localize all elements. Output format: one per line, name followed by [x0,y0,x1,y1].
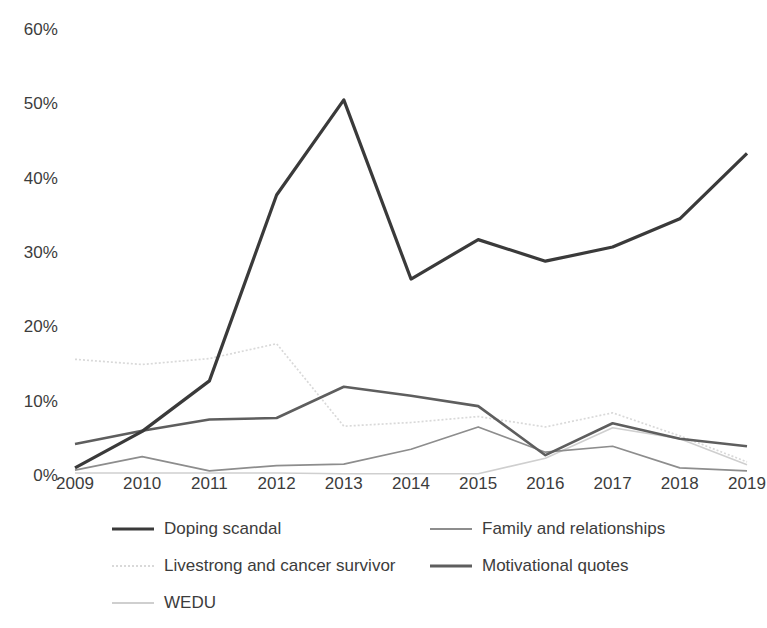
legend-label: Motivational quotes [482,555,628,577]
y-tick-label: 10% [24,392,58,412]
x-tick-label: 2014 [392,474,430,494]
legend-label: Doping scandal [164,518,281,540]
legend-item[interactable]: Family and relationships [430,518,665,540]
x-tick-label: 2013 [325,474,363,494]
legend-item[interactable]: Doping scandal [112,518,281,540]
y-tick-label: 40% [24,169,58,189]
legend-line-swatch-icon [112,560,154,572]
x-tick-label: 2015 [459,474,497,494]
x-tick-label: 2012 [257,474,295,494]
x-tick-label: 2017 [593,474,631,494]
y-tick-label: 60% [24,20,58,40]
legend-label: WEDU [164,592,216,614]
y-tick-label: 20% [24,317,58,337]
x-tick-label: 2018 [661,474,699,494]
series-line [75,344,747,462]
series-line [75,100,747,468]
x-tick-label: 2016 [526,474,564,494]
series-line [75,387,747,455]
series-line [75,428,747,474]
legend-item[interactable]: WEDU [112,592,216,614]
legend-item[interactable]: Motivational quotes [430,555,628,577]
plot-area [75,30,747,476]
legend-item[interactable]: Livestrong and cancer survivor [112,555,396,577]
y-tick-label: 30% [24,243,58,263]
x-tick-label: 2011 [191,474,228,494]
y-tick-label: 50% [24,94,58,114]
legend-line-swatch-icon [112,523,154,535]
chart-legend: Doping scandalFamily and relationshipsLi… [112,518,752,620]
legend-label: Livestrong and cancer survivor [164,555,396,577]
x-tick-label: 2009 [56,474,94,494]
x-tick-label: 2019 [728,474,766,494]
legend-line-swatch-icon [112,597,154,609]
legend-line-swatch-icon [430,560,472,572]
x-axis: 2009201020112012201320142015201620172018… [75,474,747,500]
x-tick-label: 2010 [123,474,161,494]
legend-line-swatch-icon [430,523,472,535]
y-axis: 0%10%20%30%40%50%60% [0,0,68,476]
series-lines [75,30,747,476]
legend-label: Family and relationships [482,518,665,540]
y-tick-label: 0% [33,466,58,486]
line-chart: 0%10%20%30%40%50%60% 2009201020112012201… [0,0,767,628]
